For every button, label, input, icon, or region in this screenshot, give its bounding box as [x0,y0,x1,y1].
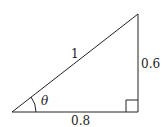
opposite-side-label: 0.6 [141,57,160,71]
angle-arc [31,97,36,112]
right-angle-marker [126,100,138,112]
hypotenuse-label: 1 [71,47,79,61]
triangle-diagram: 1 0.6 0.8 θ [0,0,163,127]
angle-theta-label: θ [41,94,49,108]
adjacent-side-label: 0.8 [71,114,90,127]
